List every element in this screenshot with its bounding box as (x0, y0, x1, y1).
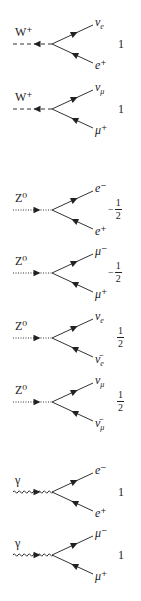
top-particle-label: μ⁻ (95, 245, 107, 257)
coupling-fraction: 12 (117, 390, 124, 413)
top-particle-label: νe (95, 310, 104, 325)
coupling-fraction: 12 (117, 326, 124, 349)
top-particle-label: νμ (95, 374, 104, 389)
coupling-value: 1 (118, 549, 124, 561)
bottom-particle-label: e⁺ (95, 225, 107, 237)
top-particle-label: e⁻ (95, 464, 107, 476)
bottom-particle-label: e⁺ (95, 507, 107, 519)
bottom-particle-label: μ⁺ (95, 288, 107, 300)
coupling-value: 1 (118, 38, 124, 50)
top-particle-label: e⁻ (95, 182, 107, 194)
boson-label: Z⁰ (15, 384, 27, 396)
boson-label: W⁺ (15, 91, 33, 103)
boson-label: γ (15, 474, 20, 486)
boson-label: Z⁰ (15, 192, 27, 204)
coupling-fraction: −12 (108, 261, 122, 284)
top-particle-label: νe (95, 16, 104, 31)
boson-label: W⁺ (15, 26, 33, 38)
bottom-particle-label: ν̄e (95, 353, 104, 368)
boson-label: Z⁰ (15, 320, 27, 332)
boson-label: Z⁰ (15, 255, 27, 267)
boson-label: γ (15, 537, 20, 549)
bottom-particle-label: ν̄μ (95, 417, 104, 432)
coupling-value: 1 (118, 103, 124, 115)
top-particle-label: μ⁻ (95, 527, 107, 539)
bottom-particle-label: e⁺ (95, 59, 107, 71)
bottom-particle-label: μ⁺ (95, 124, 107, 136)
top-particle-label: νμ (95, 81, 104, 96)
bottom-particle-label: μ⁺ (95, 570, 107, 582)
coupling-fraction: −12 (108, 198, 122, 221)
coupling-value: 1 (118, 486, 124, 498)
